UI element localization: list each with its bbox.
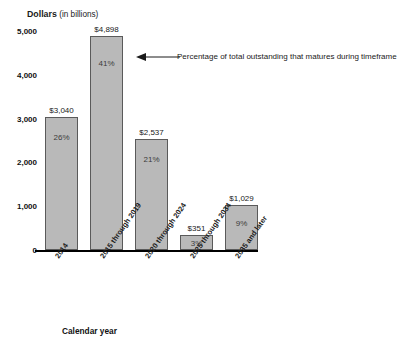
plot-area: 0 1,000 2,000 3,000 4,000 5,000 $3,040 2… <box>43 31 258 250</box>
y-tick-label-3000: 3,000 <box>17 114 37 123</box>
bar-2014: $3,040 26% <box>45 117 78 250</box>
bar-value-label-2025-2034: $351 <box>188 224 206 233</box>
bar-value-label-2035-and-later: $1,029 <box>229 194 253 203</box>
bar-2015-2019: $4,898 41% <box>90 36 123 251</box>
bar-chart-figure: Dollars (in billions) 0 1,000 2,000 3,00… <box>0 0 419 347</box>
annotation-label: Percentage of total outstanding that mat… <box>177 52 397 61</box>
bar-value-label-2014: $3,040 <box>49 106 73 115</box>
y-tick-label-2000: 2,000 <box>17 158 37 167</box>
bar-percent-label-2015-2019: 41% <box>98 59 114 68</box>
bar-percent-label-2020-2024: 21% <box>143 155 159 164</box>
y-tick-label-4000: 4,000 <box>17 70 37 79</box>
x-axis-title: Calendar year <box>62 326 117 336</box>
y-axis-title: Dollars (in billions) <box>27 9 98 19</box>
bar-percent-label-2035-and-later: 9% <box>236 219 248 228</box>
annotation-arrow-icon <box>136 51 180 63</box>
y-tick-label-5000: 5,000 <box>17 27 37 36</box>
bar-percent-label-2014: 26% <box>53 133 69 142</box>
y-axis-title-strong: Dollars <box>27 9 57 19</box>
bar-value-label-2015-2019: $4,898 <box>94 25 118 34</box>
bar-value-label-2020-2024: $2,537 <box>139 128 163 137</box>
y-axis-title-light: (in billions) <box>59 10 98 19</box>
y-tick-label-1000: 1,000 <box>17 202 37 211</box>
